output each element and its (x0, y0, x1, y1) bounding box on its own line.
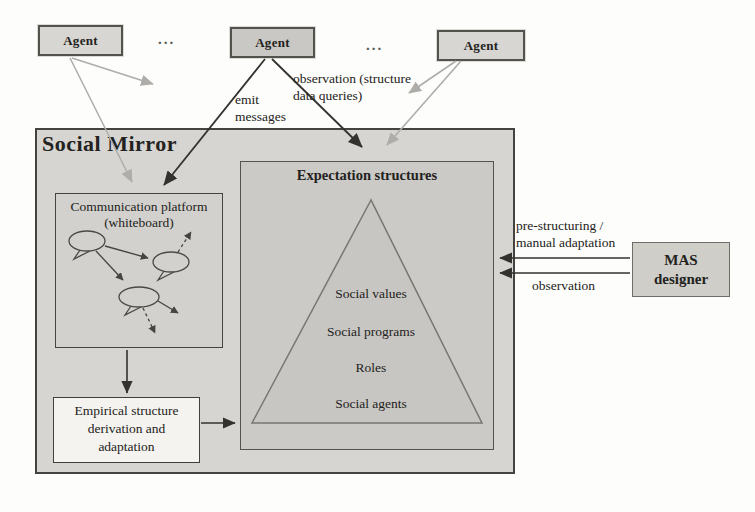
agent-right-label: Agent (464, 38, 499, 54)
diagram-canvas: Social Mirror Expectation structures Com… (0, 0, 755, 512)
agent-middle-label: Agent (255, 35, 290, 51)
communication-platform-box: Communication platform (whiteboard) (55, 193, 223, 348)
emit-messages-label-line1: emit (235, 92, 286, 109)
triangle-level-social-values: Social values (271, 286, 471, 302)
communication-platform-title-line1: Communication platform (56, 199, 222, 215)
agent-left-label: Agent (63, 33, 98, 49)
ellipsis-left: ... (158, 31, 175, 48)
triangle-level-social-programs: Social programs (271, 324, 471, 340)
empirical-structure-box: Empirical structure derivation and adapt… (53, 397, 200, 463)
empirical-line2: derivation and (54, 420, 199, 438)
mas-designer-line1: MAS (664, 251, 697, 270)
empirical-line1: Empirical structure (54, 402, 199, 420)
agent-observation-label-line2: data queries) (293, 88, 411, 105)
prestructuring-label-line2: manual adaptation (516, 235, 615, 252)
prestructuring-label-line1: pre-structuring / (516, 218, 615, 235)
agent-box-left: Agent (38, 25, 123, 56)
mas-designer-line2: designer (654, 270, 708, 289)
designer-observation-label: observation (532, 278, 595, 295)
mas-designer-box: MAS designer (632, 242, 730, 297)
social-mirror-title: Social Mirror (42, 131, 177, 157)
agent-box-right: Agent (437, 30, 525, 61)
empirical-line3: adaptation (54, 438, 199, 456)
ellipsis-right: ... (366, 37, 383, 54)
expectation-structures-title: Expectation structures (241, 167, 493, 184)
communication-platform-title-line2: (whiteboard) (56, 215, 222, 231)
triangle-level-roles: Roles (271, 360, 471, 376)
agent-observation-label-line1: observation (structure (293, 71, 411, 88)
triangle-level-social-agents: Social agents (271, 396, 471, 412)
emit-messages-label-line2: messages (235, 109, 286, 126)
agent-box-middle: Agent (230, 27, 315, 58)
